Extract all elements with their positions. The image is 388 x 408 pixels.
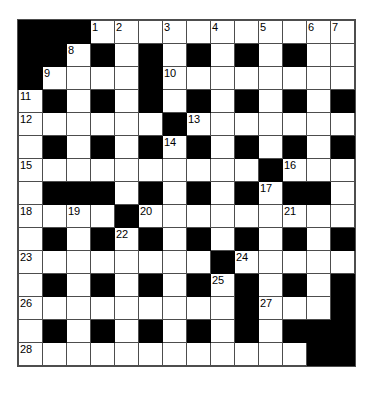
crossword-cell[interactable] [67, 228, 91, 251]
crossword-cell[interactable] [259, 136, 283, 159]
crossword-cell[interactable]: 3 [163, 21, 187, 44]
crossword-cell[interactable] [115, 320, 139, 343]
crossword-cell[interactable] [331, 159, 355, 182]
crossword-cell[interactable]: 15 [19, 159, 43, 182]
crossword-cell[interactable] [91, 113, 115, 136]
crossword-cell[interactable] [163, 343, 187, 366]
crossword-cell[interactable]: 21 [283, 205, 307, 228]
crossword-cell[interactable] [163, 228, 187, 251]
crossword-cell[interactable] [163, 274, 187, 297]
crossword-cell[interactable] [211, 136, 235, 159]
crossword-cell[interactable] [283, 21, 307, 44]
crossword-cell[interactable] [115, 44, 139, 67]
crossword-cell[interactable] [211, 297, 235, 320]
crossword-cell[interactable] [307, 205, 331, 228]
crossword-cell[interactable] [259, 44, 283, 67]
crossword-cell[interactable] [115, 159, 139, 182]
crossword-cell[interactable]: 20 [139, 205, 163, 228]
crossword-cell[interactable] [67, 343, 91, 366]
crossword-cell[interactable] [139, 113, 163, 136]
crossword-cell[interactable] [163, 297, 187, 320]
crossword-cell[interactable] [235, 205, 259, 228]
crossword-cell[interactable] [235, 113, 259, 136]
crossword-cell[interactable] [259, 228, 283, 251]
crossword-cell[interactable] [139, 343, 163, 366]
crossword-cell[interactable] [67, 113, 91, 136]
crossword-cell[interactable] [91, 159, 115, 182]
crossword-cell[interactable] [91, 297, 115, 320]
crossword-cell[interactable] [259, 320, 283, 343]
crossword-cell[interactable] [115, 251, 139, 274]
crossword-cell[interactable] [307, 297, 331, 320]
crossword-cell[interactable] [307, 67, 331, 90]
crossword-cell[interactable] [259, 274, 283, 297]
crossword-cell[interactable] [43, 343, 67, 366]
crossword-cell[interactable] [307, 251, 331, 274]
crossword-cell[interactable] [19, 182, 43, 205]
crossword-cell[interactable] [43, 113, 67, 136]
crossword-cell[interactable]: 6 [307, 21, 331, 44]
crossword-cell[interactable]: 7 [331, 21, 355, 44]
crossword-cell[interactable] [115, 113, 139, 136]
crossword-cell[interactable] [43, 205, 67, 228]
crossword-cell[interactable] [19, 274, 43, 297]
crossword-cell[interactable] [115, 136, 139, 159]
crossword-cell[interactable] [331, 251, 355, 274]
crossword-cell[interactable] [235, 67, 259, 90]
crossword-cell[interactable] [211, 343, 235, 366]
crossword-cell[interactable]: 27 [259, 297, 283, 320]
crossword-cell[interactable] [91, 251, 115, 274]
crossword-cell[interactable] [307, 113, 331, 136]
crossword-cell[interactable] [163, 90, 187, 113]
crossword-cell[interactable]: 8 [67, 44, 91, 67]
crossword-cell[interactable] [235, 21, 259, 44]
crossword-cell[interactable] [331, 205, 355, 228]
crossword-cell[interactable] [307, 90, 331, 113]
crossword-cell[interactable]: 22 [115, 228, 139, 251]
crossword-cell[interactable] [67, 67, 91, 90]
crossword-cell[interactable] [283, 113, 307, 136]
crossword-cell[interactable] [139, 21, 163, 44]
crossword-cell[interactable] [115, 90, 139, 113]
crossword-cell[interactable] [211, 159, 235, 182]
crossword-cell[interactable]: 9 [43, 67, 67, 90]
crossword-cell[interactable] [187, 67, 211, 90]
crossword-cell[interactable] [91, 343, 115, 366]
crossword-cell[interactable] [19, 136, 43, 159]
crossword-cell[interactable] [211, 205, 235, 228]
crossword-cell[interactable]: 23 [19, 251, 43, 274]
crossword-cell[interactable]: 5 [259, 21, 283, 44]
crossword-cell[interactable]: 1 [91, 21, 115, 44]
crossword-cell[interactable] [187, 297, 211, 320]
crossword-cell[interactable]: 13 [187, 113, 211, 136]
crossword-cell[interactable] [91, 205, 115, 228]
crossword-cell[interactable]: 24 [235, 251, 259, 274]
crossword-cell[interactable] [163, 205, 187, 228]
crossword-cell[interactable] [139, 251, 163, 274]
crossword-cell[interactable]: 4 [211, 21, 235, 44]
crossword-cell[interactable] [331, 44, 355, 67]
crossword-cell[interactable] [307, 159, 331, 182]
crossword-cell[interactable] [331, 67, 355, 90]
crossword-cell[interactable] [115, 182, 139, 205]
crossword-cell[interactable] [67, 136, 91, 159]
crossword-cell[interactable] [139, 297, 163, 320]
crossword-cell[interactable]: 2 [115, 21, 139, 44]
crossword-cell[interactable] [163, 251, 187, 274]
crossword-cell[interactable] [211, 228, 235, 251]
crossword-cell[interactable] [307, 44, 331, 67]
crossword-cell[interactable] [163, 159, 187, 182]
crossword-cell[interactable] [163, 182, 187, 205]
crossword-cell[interactable] [67, 274, 91, 297]
crossword-cell[interactable]: 14 [163, 136, 187, 159]
crossword-cell[interactable] [43, 251, 67, 274]
crossword-cell[interactable] [259, 90, 283, 113]
crossword-cell[interactable] [259, 343, 283, 366]
crossword-cell[interactable] [115, 67, 139, 90]
crossword-cell[interactable] [187, 205, 211, 228]
crossword-cell[interactable] [211, 90, 235, 113]
crossword-cell[interactable] [163, 44, 187, 67]
crossword-cell[interactable] [259, 205, 283, 228]
crossword-cell[interactable] [211, 113, 235, 136]
crossword-cell[interactable] [235, 343, 259, 366]
